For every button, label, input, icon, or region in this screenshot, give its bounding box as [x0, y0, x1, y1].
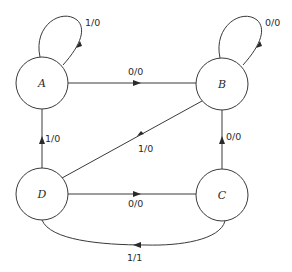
- label-a-b: 0/0: [128, 66, 143, 77]
- arrowhead-d-c: [133, 191, 141, 197]
- label-c-b: 0/0: [226, 131, 241, 142]
- transition-c-d: [42, 220, 225, 245]
- state-diagram: 1/0 0/0 0/0 1/0 1/0 0/0 0/0 1/1 A B C D: [0, 0, 292, 272]
- label-b-d: 1/0: [138, 143, 153, 154]
- state-c-label: C: [218, 189, 227, 202]
- state-b-label: B: [217, 78, 226, 91]
- state-a: A: [16, 57, 68, 109]
- arrowhead-a-b: [133, 80, 141, 86]
- label-b-b: 0/0: [265, 17, 280, 28]
- label-c-d: 1/1: [127, 252, 142, 263]
- state-d-label: D: [37, 188, 47, 201]
- label-a-a: 1/0: [85, 17, 100, 28]
- arrowhead-c-b: [219, 136, 225, 144]
- transition-b-d: [62, 101, 202, 178]
- state-d: D: [16, 168, 68, 220]
- label-d-c: 0/0: [128, 198, 143, 209]
- state-a-label: A: [37, 77, 46, 90]
- state-c: C: [196, 169, 248, 221]
- arrowhead-c-d: [133, 242, 141, 248]
- state-b: B: [196, 58, 248, 110]
- label-d-a: 1/0: [45, 133, 60, 144]
- transition-b-b: [219, 16, 262, 65]
